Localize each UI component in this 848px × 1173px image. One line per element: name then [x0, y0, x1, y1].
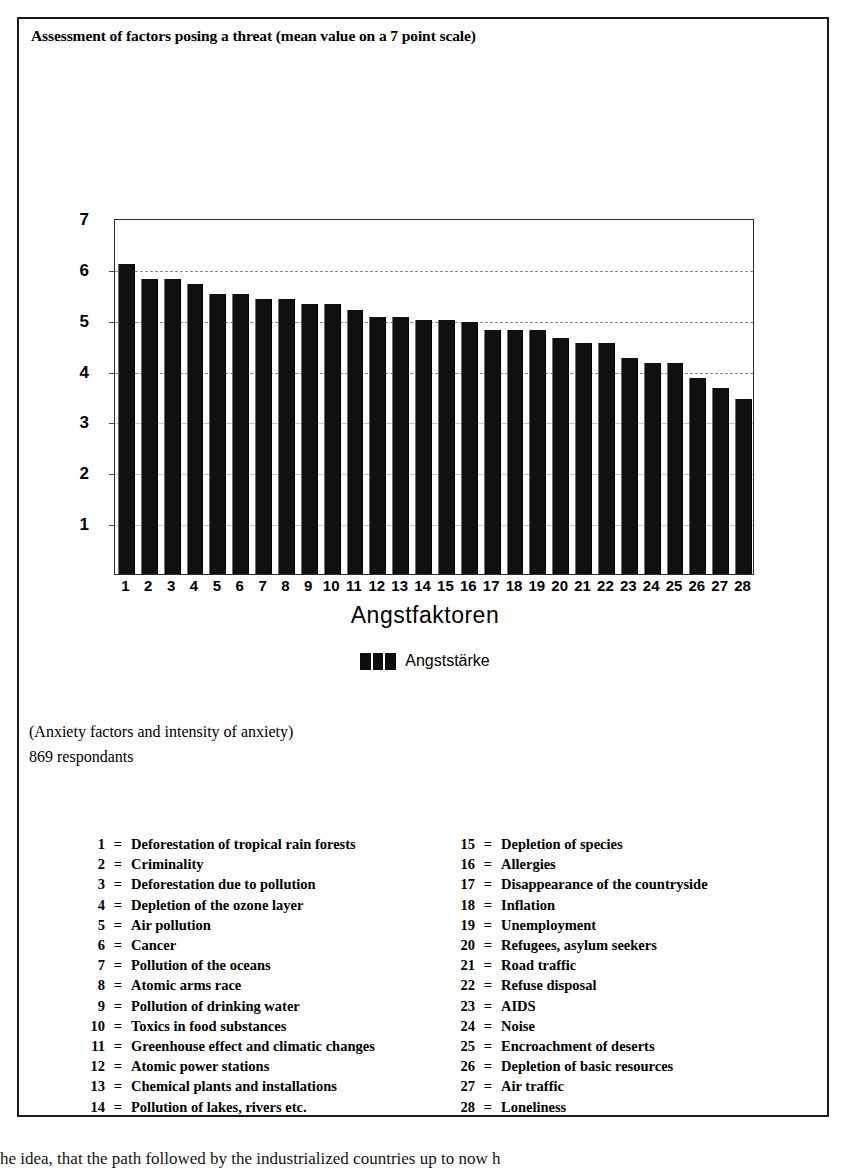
- y-tick-mark-4: [109, 373, 115, 374]
- factor-key-row: 15=Depletion of species: [449, 834, 819, 854]
- x-axis-label-26: 26: [689, 578, 706, 593]
- factor-key-row: 3=Deforestation due to pollution: [79, 874, 449, 894]
- factor-key-row: 1=Deforestation of tropical rain forests: [79, 834, 449, 854]
- x-axis-label-22: 22: [597, 578, 614, 593]
- factor-key-equals: =: [105, 935, 131, 955]
- factor-key-row: 24=Noise: [449, 1016, 819, 1036]
- y-axis-label-2: 2: [63, 465, 89, 482]
- factor-key-number: 1: [79, 834, 105, 854]
- factor-key-equals: =: [105, 996, 131, 1016]
- factor-key-row: 26=Depletion of basic resources: [449, 1056, 819, 1076]
- factor-key-text: Refugees, asylum seekers: [501, 935, 819, 955]
- bar: [232, 294, 249, 574]
- factor-key-number: 20: [449, 935, 475, 955]
- factor-key-row: 28=Loneliness: [449, 1097, 819, 1117]
- x-axis-label-16: 16: [460, 578, 477, 593]
- x-axis-label-18: 18: [506, 578, 523, 593]
- factor-key-row: 25=Encroachment of deserts: [449, 1036, 819, 1056]
- bar: [278, 299, 295, 574]
- factor-key-number: 14: [79, 1097, 105, 1117]
- factor-key-equals: =: [105, 1036, 131, 1056]
- factor-key-equals: =: [475, 1056, 501, 1076]
- x-axis-label-23: 23: [620, 578, 637, 593]
- y-tick-mark-2: [109, 474, 115, 475]
- bar: [507, 330, 524, 574]
- factor-key-text: Noise: [501, 1016, 819, 1036]
- x-axis-label-13: 13: [391, 578, 408, 593]
- factor-key-equals: =: [105, 975, 131, 995]
- factor-key-text: Disappearance of the countryside: [501, 874, 819, 894]
- factor-key-number: 15: [449, 834, 475, 854]
- factor-key-row: 27=Air traffic: [449, 1076, 819, 1096]
- factor-key-equals: =: [105, 915, 131, 935]
- factor-key-row: 8=Atomic arms race: [79, 975, 449, 995]
- factor-key-row: 6=Cancer: [79, 935, 449, 955]
- factor-key-text: Pollution of drinking water: [131, 996, 449, 1016]
- factor-key-text: Unemployment: [501, 915, 819, 935]
- factor-key-equals: =: [105, 955, 131, 975]
- factor-key-text: Pollution of lakes, rivers etc.: [131, 1097, 449, 1117]
- x-axis-label-21: 21: [574, 578, 591, 593]
- bar-series: [115, 220, 753, 574]
- x-axis-label-27: 27: [711, 578, 728, 593]
- factor-key-number: 17: [449, 874, 475, 894]
- chart-legend: Angststärke: [19, 652, 831, 670]
- factor-key-equals: =: [475, 874, 501, 894]
- bar: [735, 399, 752, 574]
- x-axis-label-14: 14: [414, 578, 431, 593]
- x-axis-label-6: 6: [236, 578, 244, 593]
- factor-key-equals: =: [475, 854, 501, 874]
- factor-key-row: 13=Chemical plants and installations: [79, 1076, 449, 1096]
- factor-key-number: 22: [449, 975, 475, 995]
- factor-key-number: 21: [449, 955, 475, 975]
- factor-key-row: 17=Disappearance of the countryside: [449, 874, 819, 894]
- bar: [667, 363, 684, 574]
- factor-key-number: 10: [79, 1016, 105, 1036]
- x-axis-label-17: 17: [483, 578, 500, 593]
- bar: [621, 358, 638, 574]
- plot-area: [114, 219, 754, 575]
- bar: [118, 264, 135, 574]
- factor-key-equals: =: [475, 955, 501, 975]
- factor-key-row: 20=Refugees, asylum seekers: [449, 935, 819, 955]
- factor-key-equals: =: [475, 935, 501, 955]
- factor-key-row: 18=Inflation: [449, 895, 819, 915]
- legend-swatch-icon: [360, 653, 396, 670]
- factor-key-equals: =: [105, 834, 131, 854]
- x-axis-label-8: 8: [281, 578, 289, 593]
- factor-key-number: 3: [79, 874, 105, 894]
- factor-key-equals: =: [475, 1076, 501, 1096]
- factor-key-equals: =: [105, 895, 131, 915]
- caption-line-respondants: 869 respondants: [29, 744, 809, 769]
- y-tick-mark-6: [109, 271, 115, 272]
- factor-key-text: Inflation: [501, 895, 819, 915]
- factor-key-number: 8: [79, 975, 105, 995]
- factor-key-row: 7=Pollution of the oceans: [79, 955, 449, 975]
- bar: [529, 330, 546, 574]
- factor-key-text: Depletion of the ozone layer: [131, 895, 449, 915]
- y-tick-mark-3: [109, 423, 115, 424]
- factor-key-text: Road traffic: [501, 955, 819, 975]
- figure-frame: Assessment of factors posing a threat (m…: [17, 17, 829, 1117]
- y-tick-mark-5: [109, 322, 115, 323]
- bar: [552, 338, 569, 574]
- factor-key-text: Atomic arms race: [131, 975, 449, 995]
- factor-key-equals: =: [475, 1016, 501, 1036]
- factor-key-text: Pollution of the oceans: [131, 955, 449, 975]
- factor-key-number: 24: [449, 1016, 475, 1036]
- x-axis-label-4: 4: [190, 578, 198, 593]
- y-axis-label-5: 5: [63, 312, 89, 329]
- bar: [187, 284, 204, 574]
- factor-key-text: AIDS: [501, 996, 819, 1016]
- factor-key-column-left: 1=Deforestation of tropical rain forests…: [79, 834, 449, 1117]
- legend-label: Angststärke: [405, 652, 489, 670]
- x-axis-label-12: 12: [369, 578, 386, 593]
- body-paragraph-fragment: he idea, that the path followed by the i…: [0, 1148, 848, 1170]
- factor-key-row: 2=Criminality: [79, 854, 449, 874]
- bar: [484, 330, 501, 574]
- factor-key-equals: =: [475, 1097, 501, 1117]
- x-axis-label-9: 9: [304, 578, 312, 593]
- x-axis-label-5: 5: [213, 578, 221, 593]
- x-axis-label-15: 15: [437, 578, 454, 593]
- bar: [712, 388, 729, 574]
